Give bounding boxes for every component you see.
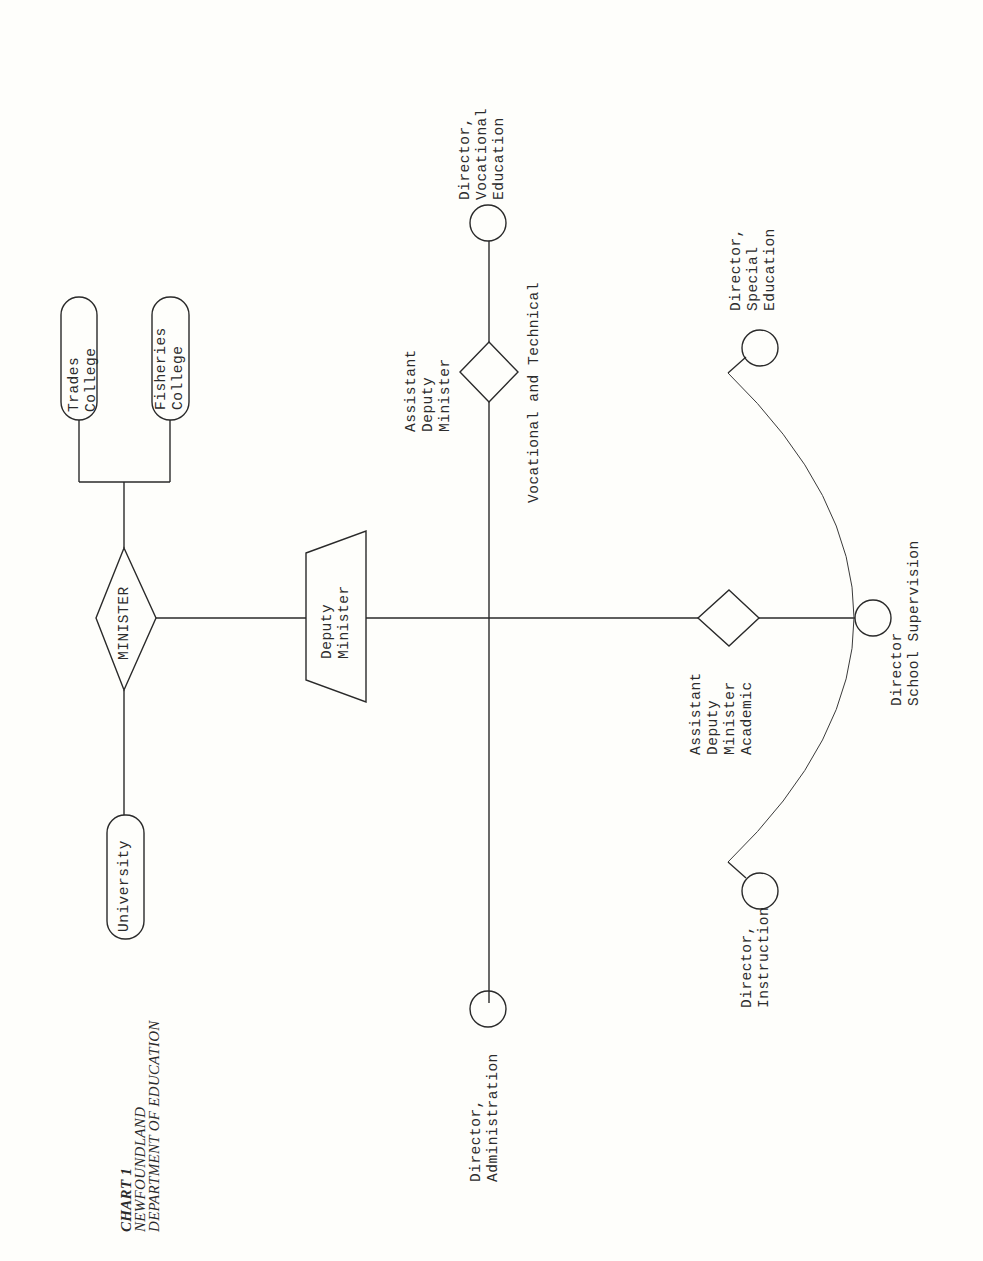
adm-academic-node [698, 590, 759, 646]
deputy-minister-label: Deputy Minister [319, 585, 353, 659]
adm-academic-label: Assistant Deputy Minister Academic [688, 672, 756, 755]
dir-vocational-label: Director, Vocational Education [457, 108, 508, 200]
dir-instruction-label: Director, Instruction [739, 907, 773, 1008]
dir-school-supervision-node [855, 600, 891, 636]
edge-arc-special [728, 357, 746, 373]
chart-title: CHART 1 NEWFOUNDLAND DEPARTMENT OF EDUCA… [119, 1020, 161, 1232]
dir-special-education-label: Director, Special Education [728, 228, 779, 311]
adm-vocational-node [460, 342, 518, 402]
trades-college-label: Trades College [66, 348, 100, 412]
chart-title-line2: DEPARTMENT OF EDUCATION [146, 1020, 162, 1232]
adm-vocational-label: Assistant Deputy Minister [403, 349, 454, 432]
adm-vocational-sublabel: Vocational and Technical [526, 282, 543, 503]
dir-administration-label: Director, Administration [468, 1053, 502, 1182]
dir-vocational-node [470, 205, 506, 241]
university-label: University [116, 840, 133, 932]
fisheries-college-label: Fisheries College [153, 327, 187, 410]
edge-arc-instruction [728, 862, 746, 878]
dir-instruction-node [742, 873, 778, 909]
minister-label: MINISTER [116, 586, 133, 660]
dir-school-supervision-label: Director School Supervision [889, 540, 923, 706]
dir-special-education-node [742, 330, 778, 366]
dir-administration-node [470, 991, 506, 1027]
